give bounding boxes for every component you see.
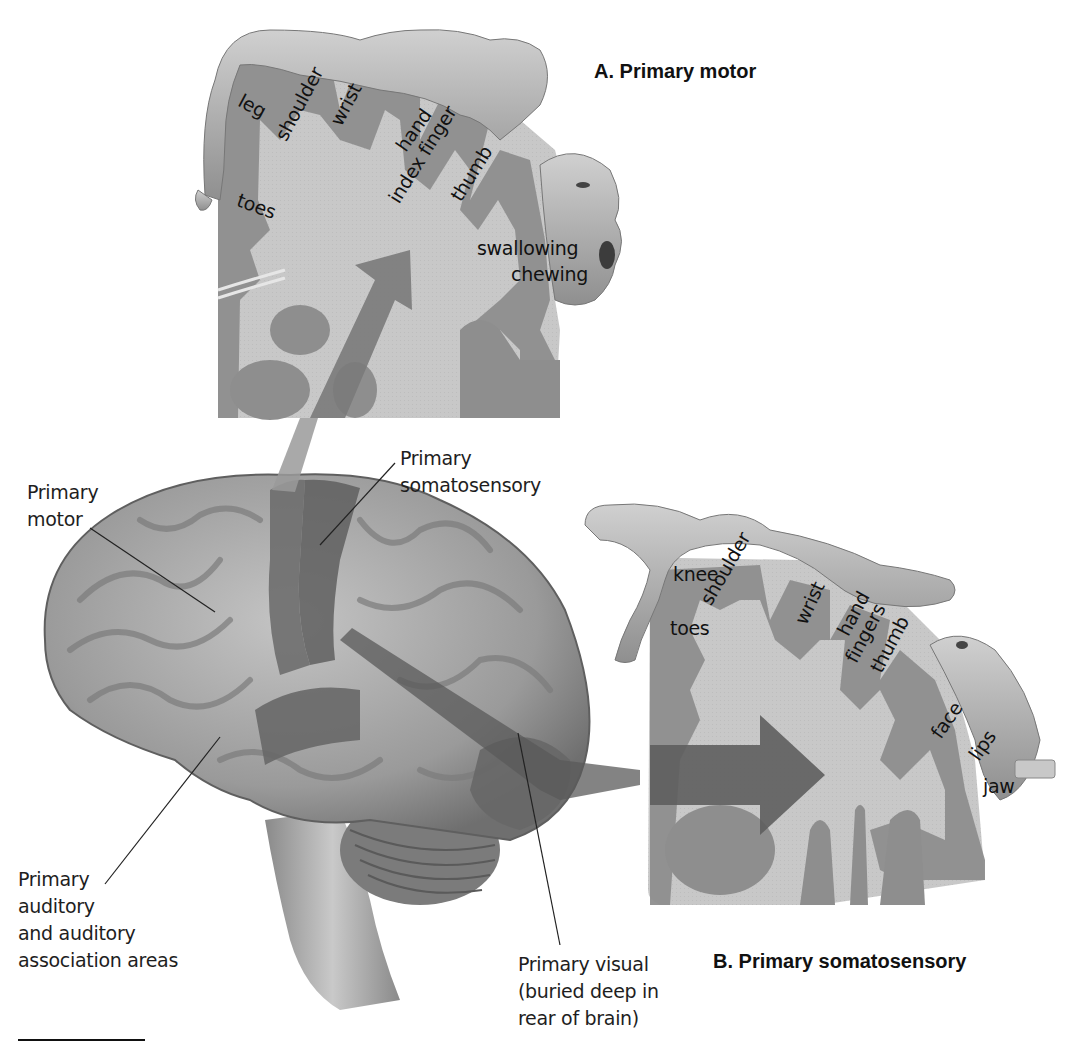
sensory-label-toes: toes (670, 617, 709, 639)
label-primary-motor: Primary motor (27, 479, 98, 533)
sensory-label-jaw: jaw (983, 775, 1015, 797)
label-primary-somatosensory: Primary somatosensory (400, 445, 541, 499)
panel-b-title: B. Primary somatosensory (713, 950, 966, 973)
label-primary-auditory: Primary auditory and auditory associatio… (18, 866, 178, 974)
motor-label-chewing: chewing (511, 263, 588, 285)
label-primary-visual: Primary visual (buried deep in rear of b… (518, 951, 659, 1032)
panel-a-title: A. Primary motor (594, 60, 756, 83)
motor-label-swallowing: swallowing (477, 237, 578, 259)
